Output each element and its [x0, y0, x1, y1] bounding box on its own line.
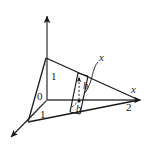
x-axis-label: x — [131, 84, 136, 95]
slice-height-label: h — [83, 81, 88, 92]
diagram-canvas — [0, 0, 156, 150]
x-tick-two-label: 2 — [126, 102, 132, 113]
depth-unit-label: 1 — [40, 109, 46, 120]
height-unit-label: 1 — [51, 71, 57, 82]
slice-height-measure — [77, 77, 80, 103]
slice-position-label: x — [99, 52, 104, 63]
origin-label: 0 — [37, 91, 43, 102]
slice-top-edge — [78, 73, 88, 76]
figure-container: 0 1 1 x 2 h b x — [0, 0, 156, 150]
slice-base-label: b — [76, 104, 81, 115]
top-slant-edge — [46, 58, 139, 100]
